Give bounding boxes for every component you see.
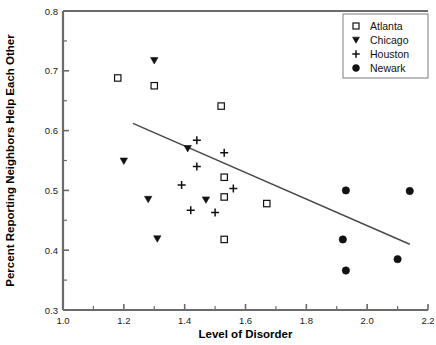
data-point-houston-4-plus-marker [229,185,237,193]
y-tick-label-5: 0.8 [45,6,58,17]
legend-marker-newark-circle-marker [353,65,360,72]
y-tick-label-1: 0.4 [45,245,58,256]
x-axis-title: Level of Disorder [199,328,293,340]
x-tick-label-2: 1.4 [178,315,191,326]
data-point-chicago-3-triangle-marker [144,196,151,202]
scatter-plot-figure: 1.01.21.41.61.82.02.20.30.40.50.60.70.8L… [0,0,436,345]
data-point-houston-2-plus-marker [193,162,201,170]
data-point-houston-6-plus-marker [211,209,219,217]
legend-label-newark: Newark [370,62,406,74]
x-tick-label-4: 1.8 [300,315,313,326]
x-tick-label-5: 2.0 [361,315,374,326]
series-atlanta [115,75,270,243]
series-newark [339,187,413,274]
data-point-houston-1-plus-marker [220,149,228,157]
y-tick-label-4: 0.7 [45,65,58,76]
data-point-newark-1-circle-marker [406,187,413,194]
x-tick-label-6: 2.2 [421,315,434,326]
plot-canvas: 1.01.21.41.61.82.02.20.30.40.50.60.70.8L… [0,0,436,345]
data-point-newark-3-circle-marker [394,255,401,262]
data-point-chicago-5-triangle-marker [154,236,161,242]
data-point-atlanta-0-square-marker [115,75,121,81]
x-tick-label-0: 1.0 [56,315,69,326]
data-point-houston-0-plus-marker [193,136,201,144]
data-point-atlanta-2-square-marker [218,103,224,109]
data-point-houston-3-plus-marker [178,181,186,189]
data-point-atlanta-1-square-marker [151,83,157,89]
legend-label-houston: Houston [370,48,409,60]
y-axis-title: Percent Reporting Neighbors Help Each Ot… [4,34,16,287]
x-tick-label-1: 1.2 [117,315,130,326]
data-point-newark-0-circle-marker [342,187,349,194]
data-point-atlanta-6-square-marker [221,236,227,242]
legend: AtlantaChicagoHoustonNewark [343,14,428,78]
y-tick-label-2: 0.5 [45,185,58,196]
legend-label-atlanta: Atlanta [370,20,403,32]
series-chicago [120,58,209,243]
data-point-atlanta-3-square-marker [221,174,227,180]
data-point-atlanta-4-square-marker [221,194,227,200]
data-point-chicago-2-triangle-marker [120,158,127,164]
data-point-atlanta-5-square-marker [264,200,270,206]
y-tick-label-0: 0.3 [45,305,58,316]
x-tick-label-3: 1.6 [239,315,252,326]
data-point-chicago-4-triangle-marker [202,197,209,203]
legend-label-chicago: Chicago [370,34,409,46]
data-point-newark-4-circle-marker [342,267,349,274]
data-point-houston-5-plus-marker [187,206,195,214]
legend-marker-atlanta-square-marker [353,23,359,29]
y-tick-label-3: 0.6 [45,125,58,136]
data-point-newark-2-circle-marker [339,236,346,243]
data-point-chicago-0-triangle-marker [151,58,158,64]
regression-trend-line [133,123,410,244]
